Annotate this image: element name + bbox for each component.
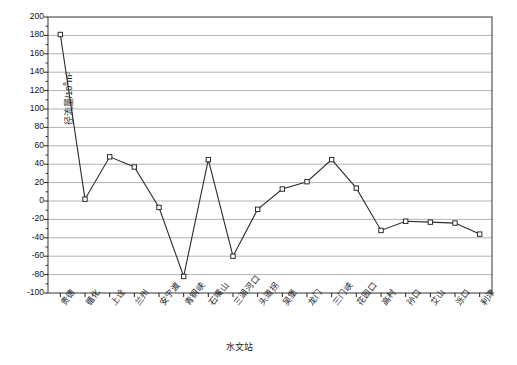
data-point-marker[interactable] (403, 219, 407, 223)
data-line (60, 34, 479, 276)
data-point-marker[interactable] (107, 155, 111, 159)
data-point-marker[interactable] (329, 157, 333, 161)
data-point-marker[interactable] (157, 205, 161, 209)
data-point-marker[interactable] (58, 32, 62, 36)
data-point-marker[interactable] (305, 179, 309, 183)
data-point-marker[interactable] (379, 228, 383, 232)
data-point-marker[interactable] (83, 197, 87, 201)
data-point-marker[interactable] (231, 254, 235, 258)
plot-frame (48, 17, 492, 293)
data-point-marker[interactable] (453, 221, 457, 225)
x-axis-title: 水文站 (226, 340, 253, 353)
data-point-marker[interactable] (354, 186, 358, 190)
data-point-marker[interactable] (280, 187, 284, 191)
data-point-marker[interactable] (477, 232, 481, 236)
data-point-marker[interactable] (428, 220, 432, 224)
data-point-marker[interactable] (181, 274, 185, 278)
runoff-line-chart: 径流量/108m³ 200180160140120100806040200-20… (0, 0, 517, 365)
data-point-marker[interactable] (255, 207, 259, 211)
plot-area (0, 0, 517, 365)
data-point-marker[interactable] (206, 157, 210, 161)
data-point-marker[interactable] (132, 165, 136, 169)
